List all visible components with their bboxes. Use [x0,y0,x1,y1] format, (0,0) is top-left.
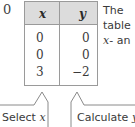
explanation-line-2: table [103,18,131,33]
callout-calculate-y: Calculate y [68,88,135,127]
table-cell-x-1: 0 [36,48,44,62]
explanation-text: The table x- an [103,3,131,48]
step-number: 0 [3,2,11,17]
callout-select-x: Select x [0,88,60,127]
column-divider [59,2,60,85]
table-cell-x-0: 0 [36,31,44,45]
table-header-row [25,2,97,25]
callout-label-calculate-y: Calculate y [77,111,135,124]
table-cell-y-2: −2 [72,65,90,79]
explanation-line-1: The [103,3,131,18]
table-cell-y-1: 0 [82,48,90,62]
header-y: y [79,7,86,21]
explanation-line-3: x- an [103,33,131,48]
table-cell-y-0: 0 [82,31,90,45]
header-x: x [39,7,46,21]
table-cell-x-2: 3 [36,65,44,79]
callout-label-select-x: Select x [2,111,46,124]
xy-table: x y 0 0 0 0 3 −2 [24,1,98,86]
